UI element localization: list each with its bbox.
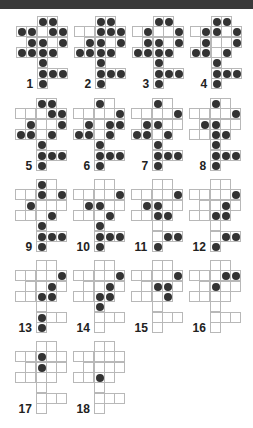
grid-cell: [57, 68, 68, 79]
dot-icon: [154, 202, 162, 210]
dot-icon: [106, 283, 114, 291]
figure-label: 11: [135, 241, 148, 253]
grid-cell: [172, 150, 183, 161]
dot-icon: [222, 233, 230, 241]
dot-icon: [144, 49, 152, 57]
grid-cell: [163, 47, 174, 58]
grid-cell: [46, 210, 57, 221]
dot-icon: [97, 28, 105, 36]
dot-icon: [27, 131, 35, 139]
dot-icon: [48, 293, 56, 301]
dot-icon: [18, 28, 26, 36]
dot-icon: [143, 121, 151, 129]
dot-icon: [155, 18, 163, 26]
grid-cell: [56, 231, 67, 242]
dot-icon: [28, 28, 36, 36]
dot-icon: [38, 233, 46, 241]
dot-icon: [212, 212, 220, 220]
dot-icon: [97, 59, 105, 67]
dot-icon: [154, 152, 162, 160]
grid-cell: [230, 281, 241, 292]
dot-icon: [96, 141, 104, 149]
dot-icon: [233, 70, 241, 78]
dot-icon: [212, 121, 220, 129]
dot-icon: [96, 303, 104, 311]
grid-cell: [105, 47, 116, 58]
figure-label: 17: [19, 403, 32, 415]
dot-icon: [222, 272, 230, 280]
grid-cell: [220, 210, 231, 221]
grid-cell: [173, 68, 184, 79]
dot-icon: [133, 131, 141, 139]
grid-cell: [104, 210, 115, 221]
dot-icon: [232, 110, 240, 118]
dot-icon: [106, 293, 114, 301]
dot-icon: [232, 152, 240, 160]
figure-label: 8: [200, 160, 207, 172]
dot-icon: [38, 181, 46, 189]
dot-icon: [76, 49, 84, 57]
dot-icon: [97, 49, 105, 57]
grid-cell: [231, 68, 242, 79]
dot-icon: [154, 243, 162, 251]
dot-icon: [212, 152, 220, 160]
dot-icon: [58, 233, 66, 241]
dot-icon: [85, 131, 93, 139]
dot-icon: [39, 49, 47, 57]
dot-icon: [106, 131, 114, 139]
figure-label: 1: [27, 78, 34, 90]
grid-cell: [230, 150, 241, 161]
dot-icon: [48, 233, 56, 241]
dot-icon: [116, 152, 124, 160]
dot-icon: [116, 272, 124, 280]
dot-icon: [222, 202, 230, 210]
grid-cell: [56, 312, 67, 323]
dot-icon: [86, 49, 94, 57]
dot-icon: [117, 70, 125, 78]
grid-cell: [162, 210, 173, 221]
grid-cell: [57, 37, 68, 48]
dot-icon: [38, 141, 46, 149]
dot-icon: [18, 49, 26, 57]
dot-icon: [38, 152, 46, 160]
dot-icon: [59, 39, 67, 47]
dot-icon: [222, 152, 230, 160]
dot-icon: [48, 110, 56, 118]
dot-icon: [96, 152, 104, 160]
dot-icon: [48, 100, 56, 108]
grid-cell: [230, 200, 241, 211]
dot-icon: [202, 39, 210, 47]
dot-icon: [154, 162, 162, 170]
dot-icon: [155, 70, 163, 78]
figure-label: 2: [85, 78, 92, 90]
grid-cell: [94, 403, 105, 414]
grid-cell: [114, 393, 125, 404]
dot-icon: [49, 28, 57, 36]
figure-label: 18: [77, 403, 90, 415]
grid-cell: [172, 312, 183, 323]
dot-icon: [154, 283, 162, 291]
dot-icon: [223, 70, 231, 78]
dot-icon: [106, 121, 114, 129]
grid-cell: [210, 241, 221, 252]
dot-icon: [27, 121, 35, 129]
grid-cell: [104, 291, 115, 302]
grid-cell: [56, 150, 67, 161]
dot-icon: [38, 162, 46, 170]
grid-cell: [94, 241, 105, 252]
dot-icon: [154, 100, 162, 108]
dot-icon: [165, 70, 173, 78]
dot-icon: [38, 293, 46, 301]
grid-cell: [56, 200, 67, 211]
dot-icon: [58, 110, 66, 118]
grid-cell: [221, 47, 232, 58]
grid-cell: [56, 393, 67, 404]
dot-icon: [116, 191, 124, 199]
dot-icon: [201, 121, 209, 129]
grid-cell: [115, 37, 126, 48]
figure-label: 12: [193, 241, 206, 253]
dot-icon: [17, 131, 25, 139]
dot-icon: [223, 49, 231, 57]
dot-icon: [155, 80, 163, 88]
dot-icon: [143, 202, 151, 210]
